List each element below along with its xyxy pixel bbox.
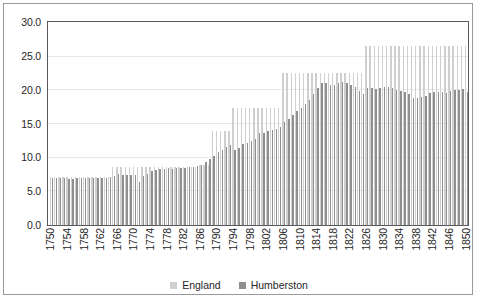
bar-group (464, 22, 468, 225)
x-axis-tick-label: 1794 (228, 228, 239, 251)
legend-item-humberston[interactable]: Humberston (239, 279, 308, 291)
x-axis-tick-label: 1834 (394, 228, 405, 251)
x-axis-tick-label: 1842 (427, 228, 438, 251)
legend-swatch-icon (170, 282, 177, 289)
x-axis-tick-label: 1766 (112, 228, 123, 251)
x-axis-tick-label: 1762 (95, 228, 106, 251)
x-axis-tick-label: 1850 (461, 228, 472, 251)
x-axis-tick-label: 1778 (162, 228, 173, 251)
x-axis-tick-label: 1754 (62, 228, 73, 251)
y-axis-tick-label: 15.0 (21, 118, 41, 130)
y-axis-tick-label: 30.0 (21, 16, 41, 28)
legend-swatch-icon (239, 282, 246, 289)
x-axis-tick-label: 1806 (278, 228, 289, 251)
y-axis-tick-label: 20.0 (21, 84, 41, 96)
x-axis-tick-label: 1782 (178, 228, 189, 251)
y-axis-tick-label: 0.0 (27, 219, 41, 231)
x-axis: 1750175417581762176617701774177817821786… (47, 228, 469, 276)
bar-humberston (467, 92, 468, 225)
y-axis-tick-label: 10.0 (21, 151, 41, 163)
x-axis-tick-label: 1810 (295, 228, 306, 251)
x-axis-tick-label: 1818 (328, 228, 339, 251)
x-axis-tick-label: 1774 (145, 228, 156, 251)
x-axis-tick-label: 1802 (261, 228, 272, 251)
x-axis-tick-label: 1770 (128, 228, 139, 251)
chart-legend: EnglandHumberston (4, 276, 474, 294)
x-axis-tick-label: 1822 (344, 228, 355, 251)
plot-area (47, 21, 469, 226)
legend-label: Humberston (251, 279, 308, 291)
y-axis: 0.05.010.015.020.025.030.0 (4, 4, 47, 244)
x-axis-tick-label: 1826 (361, 228, 372, 251)
x-axis-tick-label: 1786 (195, 228, 206, 251)
legend-item-england[interactable]: England (170, 279, 221, 291)
x-axis-tick-label: 1846 (444, 228, 455, 251)
x-axis-tick-label: 1830 (378, 228, 389, 251)
x-axis-tick-label: 1750 (45, 228, 56, 251)
x-axis-tick-label: 1790 (211, 228, 222, 251)
x-axis-tick-label: 1838 (411, 228, 422, 251)
x-axis-tick-label: 1798 (245, 228, 256, 251)
chart-frame: 0.05.010.015.020.025.030.0 1750175417581… (3, 3, 473, 295)
y-axis-tick-label: 5.0 (27, 185, 41, 197)
bar-series-container (48, 22, 468, 225)
x-axis-tick-label: 1814 (311, 228, 322, 251)
y-axis-tick-label: 25.0 (21, 50, 41, 62)
legend-label: England (182, 279, 221, 291)
x-axis-tick-label: 1758 (79, 228, 90, 251)
